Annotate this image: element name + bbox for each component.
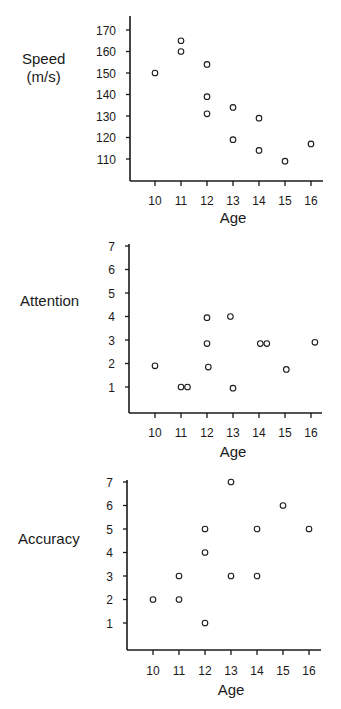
scatter-panel-1: 11012013014015016017010111213141516Age <box>96 16 323 226</box>
x-tick-label: 15 <box>278 426 292 440</box>
y-tick-label: 2 <box>108 357 115 371</box>
data-point-marker <box>176 573 182 579</box>
y-tick-label: 160 <box>96 45 116 59</box>
attention-ylabel-text: Attention <box>20 292 79 310</box>
data-point-marker <box>230 105 236 111</box>
data-point-marker <box>178 384 184 390</box>
speed-ylabel-line-2: (m/s) <box>22 68 65 86</box>
x-tick-label: 16 <box>304 426 318 440</box>
x-tick-label: 11 <box>175 194 188 208</box>
x-tick-label: 14 <box>252 426 266 440</box>
data-point-marker <box>178 38 184 44</box>
data-point-marker <box>280 503 286 509</box>
x-tick-label: 13 <box>226 426 240 440</box>
x-tick-label: 13 <box>224 664 238 678</box>
scatter-panel-3: 123456710111213141516Age <box>106 476 321 699</box>
x-tick-label: 16 <box>304 194 318 208</box>
y-tick-label: 150 <box>96 67 116 81</box>
data-point-marker <box>256 148 262 154</box>
data-point-marker <box>284 367 290 373</box>
y-tick-label: 170 <box>96 24 116 38</box>
x-tick-label: 13 <box>226 194 240 208</box>
data-point-marker <box>228 479 234 485</box>
data-point-marker <box>230 385 236 391</box>
data-point-marker <box>230 137 236 143</box>
data-point-marker <box>312 340 318 346</box>
data-point-marker <box>204 111 210 117</box>
accuracy-ylabel-text: Accuracy <box>18 530 80 548</box>
data-point-marker <box>256 115 262 121</box>
speed-y-axis-label: Speed (m/s) <box>22 50 65 86</box>
y-tick-label: 5 <box>108 287 115 301</box>
data-point-marker <box>204 341 210 347</box>
y-tick-label: 7 <box>106 476 113 490</box>
y-tick-label: 3 <box>106 570 113 584</box>
data-point-marker <box>306 526 312 532</box>
y-tick-label: 5 <box>106 523 113 537</box>
speed-ylabel-line-1: Speed <box>22 50 65 68</box>
data-point-marker <box>254 526 260 532</box>
data-point-marker <box>185 384 191 390</box>
x-tick-label: 12 <box>198 664 212 678</box>
data-point-marker <box>228 573 234 579</box>
attention-y-axis-label: Attention <box>20 292 79 310</box>
data-point-marker <box>258 341 264 347</box>
x-tick-label: 14 <box>252 194 266 208</box>
y-tick-label: 3 <box>108 334 115 348</box>
y-tick-label: 110 <box>97 153 116 167</box>
x-tick-label: 15 <box>278 194 292 208</box>
data-point-marker <box>228 314 234 320</box>
scatter-plots-svg: 11012013014015016017010111213141516Age12… <box>0 0 341 709</box>
data-point-marker <box>202 620 208 626</box>
data-point-marker <box>202 550 208 556</box>
y-tick-label: 140 <box>96 88 116 102</box>
y-tick-label: 6 <box>108 263 115 277</box>
x-tick-label: 12 <box>200 426 214 440</box>
y-tick-label: 6 <box>106 499 113 513</box>
x-tick-label: 16 <box>302 664 316 678</box>
x-axis-label: Age <box>220 209 247 226</box>
data-point-marker <box>308 141 314 147</box>
y-tick-label: 1 <box>106 617 113 631</box>
data-point-marker <box>264 341 270 347</box>
x-tick-label: 14 <box>250 664 264 678</box>
x-tick-label: 10 <box>148 194 162 208</box>
data-point-marker <box>150 597 156 603</box>
x-tick-label: 10 <box>148 426 162 440</box>
data-point-marker <box>178 49 184 55</box>
x-axis-label: Age <box>220 443 247 460</box>
x-tick-label: 12 <box>200 194 214 208</box>
y-tick-label: 120 <box>96 131 116 145</box>
chart-container: 11012013014015016017010111213141516Age12… <box>0 0 341 709</box>
x-tick-label: 10 <box>146 664 160 678</box>
data-point-marker <box>282 158 288 164</box>
data-point-marker <box>152 363 158 369</box>
data-point-marker <box>206 364 212 370</box>
accuracy-y-axis-label: Accuracy <box>18 530 80 548</box>
data-point-marker <box>254 573 260 579</box>
data-point-marker <box>152 70 158 76</box>
y-tick-label: 130 <box>96 110 116 124</box>
y-tick-label: 7 <box>108 240 115 254</box>
y-tick-label: 1 <box>108 381 115 395</box>
data-point-marker <box>204 315 210 321</box>
data-point-marker <box>202 526 208 532</box>
data-point-marker <box>204 94 210 100</box>
x-axis-label: Age <box>218 681 245 698</box>
scatter-panel-2: 123456710111213141516Age <box>108 240 322 461</box>
data-point-marker <box>204 62 210 68</box>
x-tick-label: 11 <box>173 664 186 678</box>
x-tick-label: 15 <box>276 664 290 678</box>
y-tick-label: 2 <box>106 593 113 607</box>
y-tick-label: 4 <box>108 310 115 324</box>
y-tick-label: 4 <box>106 546 113 560</box>
x-tick-label: 11 <box>175 426 188 440</box>
data-point-marker <box>176 597 182 603</box>
